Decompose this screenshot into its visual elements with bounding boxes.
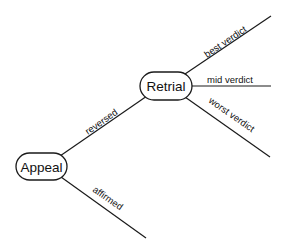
- edge-label-worst-verdict: worst verdict: [206, 94, 257, 134]
- node-label-appeal: Appeal: [20, 160, 62, 175]
- decision-tree-diagram: reversed affirmed best verdict mid verdi…: [0, 0, 282, 250]
- node-appeal: Appeal: [16, 153, 67, 180]
- edge-label-reversed: reversed: [83, 106, 120, 136]
- edge-label-affirmed: affirmed: [91, 184, 125, 213]
- node-label-retrial: Retrial: [146, 79, 185, 94]
- edge-label-mid-verdict: mid verdict: [207, 74, 253, 85]
- edge-label-best-verdict: best verdict: [202, 23, 249, 59]
- edge-affirmed: [61, 177, 146, 238]
- node-retrial: Retrial: [140, 72, 192, 100]
